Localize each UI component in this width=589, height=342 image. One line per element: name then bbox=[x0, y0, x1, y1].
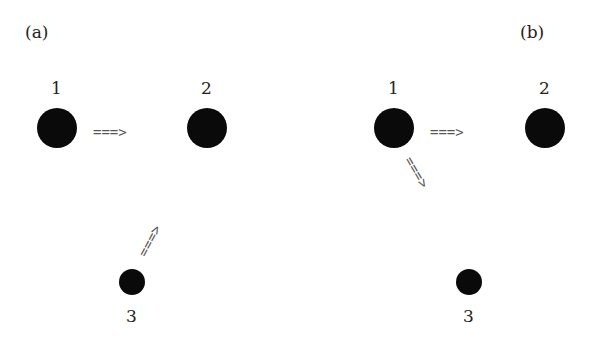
panel-a-arrow-1-to-2: ===> bbox=[93, 124, 127, 140]
panel-a-node-1-label: 1 bbox=[51, 78, 62, 98]
panel-b-node-1-label: 1 bbox=[388, 78, 399, 98]
panel-a-label: (a) bbox=[25, 22, 48, 42]
panel-a-node-3 bbox=[119, 269, 145, 295]
panel-b-node-2 bbox=[525, 108, 565, 148]
panel-a-node-2-label: 2 bbox=[201, 78, 212, 98]
panel-b-node-1 bbox=[374, 108, 414, 148]
panel-a-node-1 bbox=[37, 108, 77, 148]
panel-b-arrow-1-to-2: ===> bbox=[430, 124, 464, 140]
panel-b: (b) 1 2 3 ===> ===> bbox=[374, 22, 565, 326]
panel-b-node-3 bbox=[456, 269, 482, 295]
panel-a-node-3-label: 3 bbox=[126, 306, 137, 326]
panel-a-arrow-3-to-2: ===> bbox=[135, 222, 165, 259]
panel-b-arrow-1-to-3: ===> bbox=[401, 154, 432, 191]
panel-a: (a) 1 2 3 ===> ===> bbox=[25, 22, 227, 326]
panel-b-node-2-label: 2 bbox=[539, 78, 550, 98]
panel-a-node-2 bbox=[187, 108, 227, 148]
diagram-canvas: (a) 1 2 3 ===> ===> (b) 1 2 3 ===> ===> bbox=[0, 0, 589, 342]
panel-b-label: (b) bbox=[520, 22, 544, 42]
panel-b-node-3-label: 3 bbox=[463, 306, 474, 326]
